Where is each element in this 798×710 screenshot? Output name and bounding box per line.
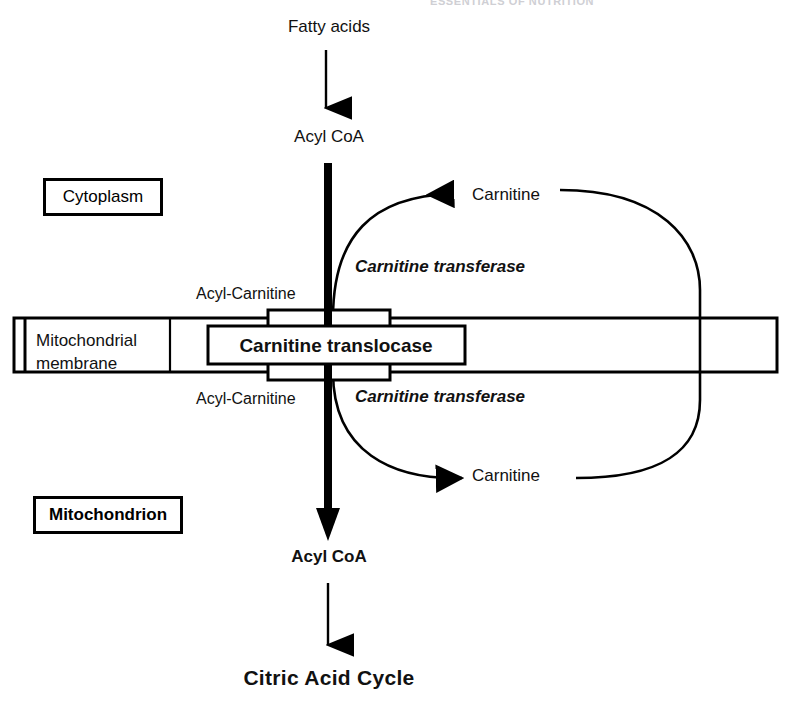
label-carnitine-translocase: Carnitine translocase	[239, 336, 432, 357]
label-carnitine-matrix: Carnitine	[472, 467, 540, 486]
label-mitochondrial-membrane: Mitochondrial membrane	[36, 330, 137, 376]
label-carnitine-transferase-outer: Carnitine transferase	[355, 258, 525, 277]
membrane-label-line-2: membrane	[36, 353, 137, 376]
label-fatty-acids: Fatty acids	[288, 18, 370, 37]
label-acyl-carnitine-outer: Acyl-Carnitine	[196, 285, 296, 303]
label-carnitine-cytoplasmic: Carnitine	[472, 186, 540, 205]
label-carnitine-transferase-inner: Carnitine transferase	[355, 388, 525, 407]
box-mitochondrion: Mitochondrion	[33, 496, 183, 534]
box-cytoplasm: Cytoplasm	[43, 178, 163, 216]
membrane-label-line-1: Mitochondrial	[36, 330, 137, 353]
label-acyl-coa-matrix: Acyl CoA	[291, 548, 367, 567]
label-acyl-coa-cytoplasm: Acyl CoA	[294, 128, 364, 147]
label-mitochondrion: Mitochondrion	[49, 505, 167, 525]
label-acyl-carnitine-inner: Acyl-Carnitine	[196, 390, 296, 408]
label-citric-acid-cycle: Citric Acid Cycle	[243, 666, 414, 689]
diagram-canvas: ESSENTIALS OF NUTRITION	[0, 0, 798, 710]
label-cytoplasm: Cytoplasm	[63, 187, 143, 207]
